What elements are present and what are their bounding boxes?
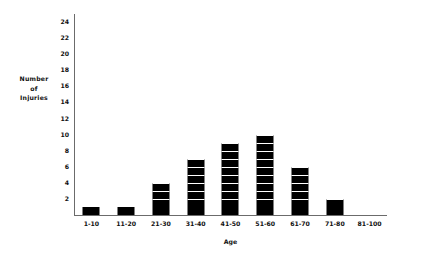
y-tick-label: 16 <box>60 83 69 89</box>
bars-layer <box>74 14 387 215</box>
plot-area: 24681012141618202224 <box>74 14 387 216</box>
y-axis-title: Number of Injuries <box>8 74 60 103</box>
bar-unit-block <box>257 191 274 199</box>
bar-unit-block <box>292 175 309 183</box>
bar[interactable] <box>152 183 169 215</box>
x-tick-labels: 1-1011-2021-3031-4041-5051-6061-7071-808… <box>74 220 387 232</box>
y-tick-label: 22 <box>60 35 69 41</box>
y-axis-title-line-2: of <box>8 84 60 94</box>
y-tick-label: 18 <box>60 67 69 73</box>
bar-unit-block <box>257 207 274 215</box>
bar-unit-block <box>222 191 239 199</box>
y-tick-label: 6 <box>65 164 69 170</box>
bar-unit-block <box>257 143 274 151</box>
bar-unit-block <box>257 183 274 191</box>
bar-unit-block <box>222 143 239 151</box>
y-tick-label: 10 <box>60 131 69 137</box>
y-tick-label: 20 <box>60 51 69 57</box>
y-tick-label: 2 <box>65 196 69 202</box>
bar-unit-block <box>187 191 204 199</box>
bar-unit-block <box>152 191 169 199</box>
bar-unit-block <box>257 135 274 143</box>
x-axis-title: Age <box>74 238 387 246</box>
bar-slot[interactable] <box>74 14 109 215</box>
bar[interactable] <box>257 135 274 215</box>
bar-slot[interactable] <box>109 14 144 215</box>
bar-unit-block <box>292 207 309 215</box>
x-axis-line <box>74 215 387 216</box>
bar-unit-block <box>152 207 169 215</box>
y-tick-label: 4 <box>65 180 69 186</box>
bar-unit-block <box>257 151 274 159</box>
y-tick-label: 8 <box>65 148 69 154</box>
bar-unit-block <box>222 151 239 159</box>
bar-slot[interactable] <box>213 14 248 215</box>
bar-unit-block <box>222 207 239 215</box>
bar-unit-block <box>187 159 204 167</box>
bar-unit-block <box>187 167 204 175</box>
bar-unit-block <box>257 167 274 175</box>
bar-unit-block <box>187 183 204 191</box>
bar-unit-block <box>152 183 169 191</box>
bar[interactable] <box>83 207 100 215</box>
bar-unit-block <box>292 167 309 175</box>
bar-unit-block <box>326 199 343 207</box>
bar[interactable] <box>187 159 204 215</box>
bar-unit-block <box>187 199 204 207</box>
y-axis-title-line-1: Number <box>8 74 60 84</box>
bar-chart: Number of Injuries 24681012141618202224 … <box>0 0 424 259</box>
bar-unit-block <box>257 159 274 167</box>
y-tick-label: 14 <box>60 99 69 105</box>
bar[interactable] <box>222 143 239 215</box>
y-tick-label: 24 <box>60 19 69 25</box>
bar-slot[interactable] <box>178 14 213 215</box>
bar-slot[interactable] <box>248 14 283 215</box>
bar-slot[interactable] <box>283 14 318 215</box>
bar-unit-block <box>222 183 239 191</box>
bar[interactable] <box>118 207 135 215</box>
bar-unit-block <box>83 207 100 215</box>
bar[interactable] <box>326 199 343 215</box>
bar-slot[interactable] <box>144 14 179 215</box>
bar-unit-block <box>257 175 274 183</box>
bar[interactable] <box>292 167 309 215</box>
x-tick-label: 81-100 <box>350 220 390 228</box>
bar-unit-block <box>118 207 135 215</box>
bar-slot[interactable] <box>317 14 352 215</box>
bar-unit-block <box>222 199 239 207</box>
bar-unit-block <box>292 191 309 199</box>
bar-slot[interactable] <box>352 14 387 215</box>
bar-unit-block <box>187 207 204 215</box>
bar-unit-block <box>292 183 309 191</box>
bar-unit-block <box>326 207 343 215</box>
y-tick-label: 12 <box>60 115 69 121</box>
bar-unit-block <box>292 199 309 207</box>
bar-unit-block <box>222 175 239 183</box>
y-axis-title-line-3: Injuries <box>8 93 60 103</box>
bar-unit-block <box>187 175 204 183</box>
bar-unit-block <box>257 199 274 207</box>
bar-unit-block <box>222 159 239 167</box>
bar-unit-block <box>222 167 239 175</box>
bar-unit-block <box>152 199 169 207</box>
